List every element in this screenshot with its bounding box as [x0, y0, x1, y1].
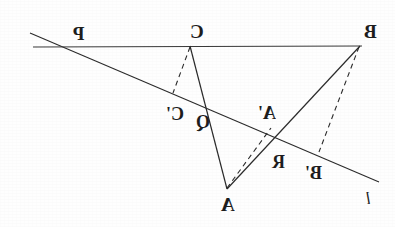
label-point-r: R — [272, 153, 285, 171]
label-point-a-prime: A' — [258, 104, 276, 122]
segment-c-cprime-dashed — [173, 47, 190, 93]
label-point-a: A — [221, 195, 235, 214]
label-point-b-prime: B' — [305, 164, 322, 182]
label-point-b: B — [364, 22, 377, 41]
segment-a-aprime-dashed — [227, 128, 271, 188]
segment-ba — [227, 46, 360, 189]
geometry-figure: P C B C' Q A' R B' A l — [0, 0, 395, 227]
label-point-c-prime: C' — [166, 105, 184, 123]
label-point-c: C — [190, 22, 204, 41]
line-l — [30, 33, 379, 182]
segment-b-bprime-dashed — [319, 47, 359, 152]
label-point-q: Q — [196, 113, 210, 131]
horizontal-line-pcb — [33, 46, 362, 47]
label-line-l: l — [366, 190, 371, 207]
label-point-p: P — [73, 24, 85, 43]
